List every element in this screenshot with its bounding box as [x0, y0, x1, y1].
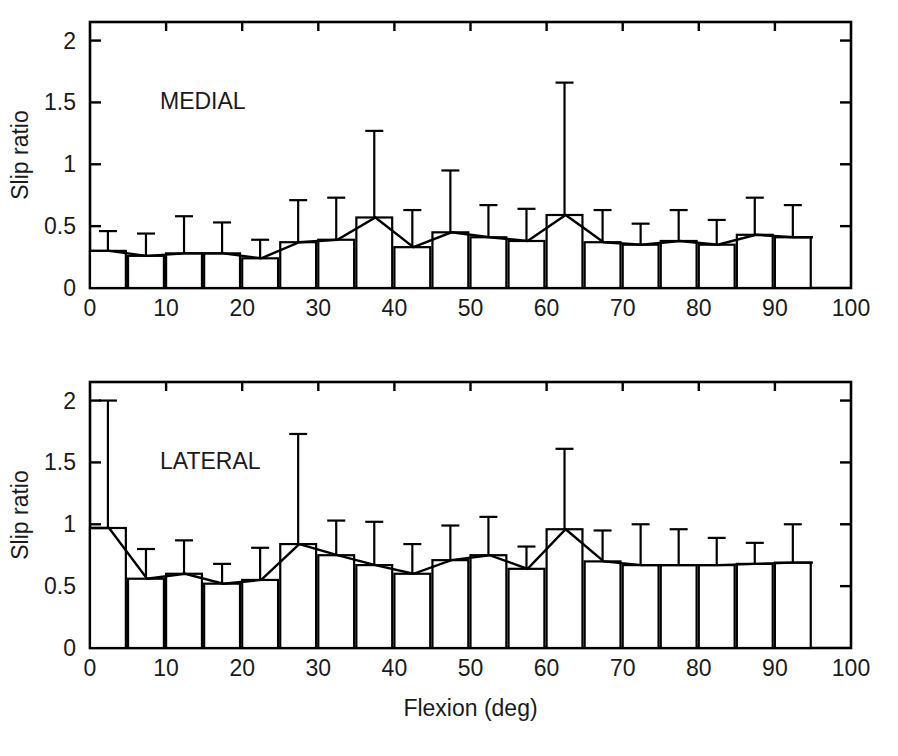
xtick-label-medial-6: 60	[534, 295, 560, 321]
bar-lateral-0[interactable]	[90, 528, 126, 648]
bar-medial-14[interactable]	[623, 245, 659, 288]
ytick-label-medial-1: 0.5	[44, 213, 76, 239]
ytick-label-medial-2: 1	[63, 151, 76, 177]
bar-medial-18[interactable]	[775, 237, 811, 288]
xtick-label-medial-1: 10	[153, 295, 179, 321]
bar-medial-10[interactable]	[471, 237, 507, 288]
ytick-label-lateral-2: 1	[63, 511, 76, 537]
bar-lateral-2[interactable]	[166, 574, 202, 648]
bar-lateral-7[interactable]	[356, 565, 392, 648]
xtick-label-lateral-4: 40	[382, 655, 408, 681]
bar-medial-9[interactable]	[432, 232, 468, 288]
xtick-label-lateral-0: 0	[84, 655, 97, 681]
xtick-label-lateral-5: 50	[458, 655, 484, 681]
bar-lateral-14[interactable]	[623, 565, 659, 648]
xtick-label-lateral-10: 100	[832, 655, 870, 681]
bar-medial-8[interactable]	[394, 247, 430, 288]
bar-medial-12[interactable]	[547, 215, 583, 288]
xtick-label-lateral-3: 30	[306, 655, 332, 681]
figure-container: 00.511.520102030405060708090100Slip rati…	[0, 0, 898, 756]
x-axis-title: Flexion (deg)	[403, 695, 537, 721]
ytick-label-lateral-3: 1.5	[44, 449, 76, 475]
bar-lateral-9[interactable]	[432, 560, 468, 648]
bar-lateral-1[interactable]	[128, 579, 164, 648]
xtick-label-lateral-6: 60	[534, 655, 560, 681]
bar-medial-13[interactable]	[585, 242, 621, 288]
bar-lateral-11[interactable]	[509, 569, 545, 648]
bar-medial-1[interactable]	[128, 256, 164, 288]
xtick-label-medial-0: 0	[84, 295, 97, 321]
bar-medial-4[interactable]	[242, 258, 278, 288]
xtick-label-medial-9: 90	[762, 295, 788, 321]
y-axis-title-medial: Slip ratio	[7, 110, 33, 199]
chart-panel-medial: 00.511.520102030405060708090100Slip rati…	[7, 22, 870, 321]
bar-lateral-16[interactable]	[699, 565, 735, 648]
bar-lateral-18[interactable]	[775, 563, 811, 648]
chart-canvas: 00.511.520102030405060708090100Slip rati…	[0, 0, 898, 756]
bar-medial-15[interactable]	[661, 241, 697, 288]
bar-lateral-17[interactable]	[737, 564, 773, 648]
bar-lateral-8[interactable]	[394, 574, 430, 648]
bar-medial-3[interactable]	[204, 253, 240, 288]
bar-medial-7[interactable]	[356, 217, 392, 288]
bar-lateral-13[interactable]	[585, 561, 621, 648]
xtick-label-medial-3: 30	[306, 295, 332, 321]
ytick-label-medial-0: 0	[63, 275, 76, 301]
ytick-label-medial-3: 1.5	[44, 89, 76, 115]
xtick-label-medial-10: 100	[832, 295, 870, 321]
xtick-label-medial-8: 80	[686, 295, 712, 321]
xtick-label-medial-5: 50	[458, 295, 484, 321]
bar-lateral-15[interactable]	[661, 565, 697, 648]
bar-medial-2[interactable]	[166, 253, 202, 288]
bar-lateral-10[interactable]	[471, 555, 507, 648]
panel-label-medial: MEDIAL	[160, 88, 246, 114]
bar-medial-11[interactable]	[509, 241, 545, 288]
bar-medial-0[interactable]	[90, 251, 126, 288]
ytick-label-medial-4: 2	[63, 28, 76, 54]
xtick-label-lateral-7: 70	[610, 655, 636, 681]
bar-lateral-5[interactable]	[280, 544, 316, 648]
bar-lateral-4[interactable]	[242, 580, 278, 648]
xtick-label-medial-4: 40	[382, 295, 408, 321]
y-axis-title-lateral: Slip ratio	[7, 470, 33, 559]
xtick-label-lateral-2: 20	[229, 655, 255, 681]
xtick-label-medial-7: 70	[610, 295, 636, 321]
ytick-label-lateral-4: 2	[63, 388, 76, 414]
panel-label-lateral: LATERAL	[160, 448, 261, 474]
bar-lateral-3[interactable]	[204, 584, 240, 648]
bar-medial-17[interactable]	[737, 235, 773, 288]
xtick-label-lateral-1: 10	[153, 655, 179, 681]
xtick-label-lateral-9: 90	[762, 655, 788, 681]
ytick-label-lateral-1: 0.5	[44, 573, 76, 599]
bar-medial-6[interactable]	[318, 240, 354, 288]
bar-medial-16[interactable]	[699, 245, 735, 288]
chart-panel-lateral: 00.511.520102030405060708090100Slip rati…	[7, 382, 870, 681]
xtick-label-lateral-8: 80	[686, 655, 712, 681]
bar-lateral-6[interactable]	[318, 555, 354, 648]
bar-lateral-12[interactable]	[547, 529, 583, 648]
ytick-label-lateral-0: 0	[63, 635, 76, 661]
xtick-label-medial-2: 20	[229, 295, 255, 321]
